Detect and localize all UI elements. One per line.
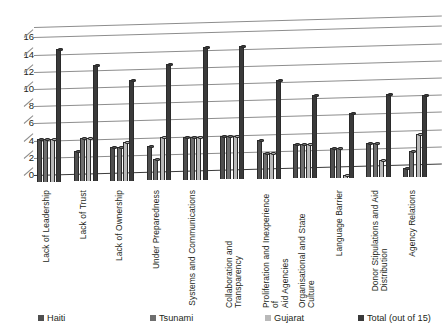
- legend-swatch-icon: [358, 315, 364, 321]
- bar-chart: 0246810121416 Lack of LeadershipLack of …: [0, 0, 448, 333]
- chart-legend: HaitiTsunamiGujaratTotal (out of 15): [0, 310, 448, 333]
- bar: [366, 143, 371, 177]
- bar: [86, 138, 91, 181]
- legend-swatch-icon: [150, 315, 156, 321]
- bar: [190, 137, 195, 180]
- legend-item[interactable]: Tsunami: [150, 313, 193, 323]
- plot-area: 0246810121416: [0, 0, 448, 190]
- bar-group: [219, 0, 252, 190]
- x-axis-tick-label: Organisational and State Culture: [298, 190, 317, 308]
- bar: [196, 137, 201, 180]
- bar: [220, 136, 225, 179]
- bar: [80, 138, 85, 181]
- bar: [183, 137, 188, 180]
- legend-item[interactable]: Total (out of 15): [358, 313, 431, 323]
- bar-group: [292, 0, 325, 190]
- bar: [293, 144, 298, 178]
- x-axis-tick-label: Language Barrier: [335, 190, 344, 256]
- bar: [203, 47, 208, 180]
- x-axis-tick-label: Lack of Leadership: [42, 190, 51, 263]
- legend-label: Total (out of 15): [367, 313, 431, 323]
- bar-group: [256, 0, 289, 190]
- bar: [379, 160, 384, 177]
- legend-swatch-icon: [38, 315, 44, 321]
- bar-group: [36, 0, 69, 190]
- x-axis-tick-label: Lack of Ownership: [115, 190, 124, 261]
- bar: [226, 136, 231, 179]
- bar: [117, 147, 122, 181]
- bar: [416, 134, 421, 177]
- bar: [56, 49, 61, 182]
- bar: [349, 113, 354, 178]
- bar: [147, 146, 152, 180]
- legend-label: Gujarat: [274, 313, 304, 323]
- bar-group: [182, 0, 215, 190]
- bar: [74, 151, 79, 181]
- bar-group: [365, 0, 398, 190]
- bar: [166, 64, 171, 180]
- bar: [37, 139, 42, 182]
- bar-group: [146, 0, 179, 190]
- bar: [110, 147, 115, 181]
- x-axis-tick-label: Collaboration and Transparency: [225, 190, 244, 308]
- bar: [373, 143, 378, 177]
- bar: [233, 136, 238, 179]
- bar-group: [73, 0, 106, 190]
- bar: [160, 137, 165, 180]
- x-axis-tick-label: Under Preparedness: [152, 190, 161, 269]
- bar: [43, 139, 48, 182]
- bar-series-area: [34, 0, 444, 190]
- x-axis-tick-label: Systems and Communications: [188, 190, 197, 306]
- bar: [422, 95, 427, 177]
- bar: [239, 46, 244, 179]
- x-axis-tick-label: Proliferation and Inexperience of Aid Ag…: [262, 190, 290, 308]
- bar: [153, 159, 158, 181]
- bar: [276, 80, 281, 179]
- legend-item[interactable]: Haiti: [38, 313, 65, 323]
- legend-label: Tsunami: [159, 313, 193, 323]
- legend-item[interactable]: Gujarat: [265, 313, 304, 323]
- bar: [50, 139, 55, 182]
- y-axis: 0246810121416: [6, 0, 34, 190]
- bar-group: [109, 0, 142, 190]
- bar-group: [329, 0, 362, 190]
- bar: [386, 94, 391, 177]
- bar: [263, 153, 268, 179]
- bar: [129, 80, 134, 181]
- bar: [312, 95, 317, 178]
- bar: [300, 144, 305, 178]
- bar: [257, 140, 262, 179]
- legend-label: Haiti: [47, 313, 65, 323]
- legend-swatch-icon: [265, 315, 271, 321]
- bar: [330, 148, 335, 178]
- bar: [409, 151, 414, 177]
- bar: [306, 144, 311, 178]
- x-axis-labels: Lack of LeadershipLack of TrustLack of O…: [0, 190, 448, 308]
- bar: [93, 65, 98, 181]
- bar-group: [402, 0, 435, 190]
- x-axis-tick-label: Lack of Trust: [79, 190, 88, 239]
- bar: [123, 142, 128, 181]
- x-axis-tick-label: Donor Stipulations and Aid Distribution: [371, 190, 390, 291]
- bar: [336, 148, 341, 178]
- x-axis-tick-label: Agency Relations: [408, 190, 417, 257]
- bar: [269, 153, 274, 179]
- bar: [343, 175, 348, 178]
- bar: [403, 168, 408, 177]
